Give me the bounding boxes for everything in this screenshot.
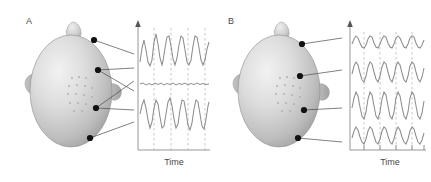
gridlines [364, 32, 412, 150]
panel-b-xlabel: Time [380, 157, 400, 167]
electrode-1[interactable] [299, 41, 305, 47]
trace-3 [140, 98, 209, 130]
trace-3 [352, 92, 424, 119]
panel-a-plot: Time [130, 18, 214, 170]
panel-b-plot: Time [342, 18, 430, 170]
trace-1 [140, 34, 209, 66]
electrode-2[interactable] [297, 73, 303, 79]
electrode-4[interactable] [295, 135, 301, 141]
panel-a: A [0, 0, 215, 182]
scalp [30, 35, 112, 147]
electrode-4[interactable] [87, 135, 93, 141]
electrode-3[interactable] [301, 107, 307, 113]
trace-1 [352, 36, 424, 48]
x-axis-ticks [364, 145, 424, 150]
y-axis-arrow [135, 20, 141, 27]
panel-b: B [216, 0, 431, 182]
scalp [238, 35, 320, 147]
y-axis [135, 20, 141, 150]
panel-b-head-diagram [230, 18, 342, 152]
electrode-3[interactable] [93, 105, 99, 111]
figure-root: A [0, 0, 431, 182]
trace-2 [352, 62, 424, 82]
y-axis [347, 20, 353, 150]
gridlines [154, 28, 205, 150]
y-axis-arrow [347, 20, 353, 27]
panel-a-head-diagram [22, 18, 134, 152]
trace-4 [352, 127, 424, 144]
panel-a-xlabel: Time [164, 157, 184, 167]
electrode-1[interactable] [91, 37, 97, 43]
electrode-2[interactable] [95, 67, 101, 73]
trace-2 [140, 83, 209, 85]
